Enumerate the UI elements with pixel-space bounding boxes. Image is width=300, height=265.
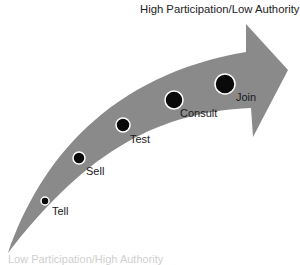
bottom-label: Low Participation/High Authority [8,254,163,265]
stage-dot-sell [73,152,85,164]
stage-label-consult: Consult [180,108,217,119]
stage-label-sell: Sell [86,166,104,177]
stage-label-test: Test [130,134,150,145]
stage-dot-test [116,118,130,132]
stage-dot-tell [41,197,49,205]
diagram-title: High Participation/Low Authority [140,4,300,15]
stage-label-join: Join [236,92,256,103]
stage-label-tell: Tell [52,206,69,217]
stage-dot-join [215,74,235,94]
